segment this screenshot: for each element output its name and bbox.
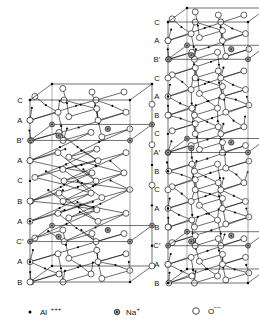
oxygen-ion: [188, 254, 194, 260]
oxygen-ion: [219, 261, 225, 267]
aluminium-ion: [94, 226, 96, 228]
sodium-ion-core: [107, 128, 109, 130]
aluminium-ion: [31, 107, 33, 109]
oxygen-ion: [89, 89, 95, 95]
sodium-ion-core: [167, 245, 169, 247]
oxygen-ion: [241, 68, 247, 74]
oxygen-ion: [246, 102, 252, 108]
oxygen-ion: [60, 166, 66, 172]
oxygen-ion: [95, 158, 101, 164]
oxygen-ion: [241, 12, 247, 18]
aluminium-ion: [181, 174, 183, 176]
oxygen-ion: [66, 255, 72, 261]
oxygen-ion: [55, 210, 61, 216]
sodium-ion-core: [167, 152, 169, 154]
aluminium-ion: [193, 46, 195, 48]
oxygen-ion: [191, 224, 197, 230]
aluminium-ion: [210, 229, 212, 231]
oxygen-ion: [188, 198, 194, 204]
legend-symbol: Al: [40, 308, 47, 317]
sodium-ion-core: [186, 44, 188, 46]
aluminium-ion: [65, 163, 67, 165]
oxygen-ion: [121, 231, 127, 237]
oxygen-ion: [191, 112, 197, 118]
oxygen-ion: [165, 261, 171, 267]
sodium-ion-core: [29, 241, 31, 243]
sodium-ion-core: [107, 229, 109, 231]
aluminium-ion: [232, 120, 234, 122]
sodium-ion-core: [230, 48, 232, 50]
oxygen-ion: [95, 117, 101, 123]
aluminium-ion: [78, 206, 80, 208]
sodium-ion-core: [190, 54, 192, 56]
aluminium-ion: [60, 125, 62, 127]
oxygen-ion: [188, 87, 194, 93]
aluminium-ion: [77, 246, 79, 248]
oxygen-ion: [218, 75, 224, 81]
oxygen-ion: [192, 121, 198, 127]
aluminium-ion: [178, 214, 180, 216]
oxygen-ion: [189, 105, 195, 111]
aluminium-ion: [44, 267, 46, 269]
aluminium-ion: [191, 214, 193, 216]
oxygen-ion: [196, 258, 202, 264]
aluminium-ion: [82, 168, 84, 170]
legend-charge: +: [137, 305, 141, 312]
stacking-label: C′: [153, 241, 161, 250]
oxygen-ion: [192, 65, 198, 71]
aluminium-ion: [206, 158, 208, 160]
oxygen-ion: [219, 205, 225, 211]
oxygen-ion: [55, 109, 61, 115]
oxygen-ion: [191, 168, 197, 174]
oxygen-ion: [192, 131, 198, 137]
stacking-label: B: [154, 223, 159, 232]
aluminium-ion: [170, 253, 172, 255]
aluminium-ion: [60, 186, 62, 188]
aluminium-ion: [209, 193, 211, 195]
oxygen-ion: [241, 124, 247, 130]
stacking-label: B′: [17, 136, 24, 145]
oxygen-ion: [32, 174, 38, 180]
oxygen-ion: [196, 90, 202, 96]
aluminium-ion: [231, 27, 233, 29]
aluminium-ion: [98, 141, 100, 143]
stacking-label: A: [154, 92, 160, 101]
aluminium-ion: [169, 84, 171, 86]
aluminium-ion: [205, 213, 207, 215]
oxygen-ion: [61, 178, 67, 184]
oxygen-ion: [165, 224, 171, 230]
oxygen-ion: [246, 214, 252, 220]
aluminium-ion: [194, 270, 196, 272]
cell-vertex: [186, 268, 189, 271]
oxygen-ion: [219, 38, 225, 44]
stacking-label: C′: [16, 237, 24, 246]
aluminium-ion: [180, 26, 182, 28]
oxygen-ion: [123, 150, 129, 156]
aluminium-ion: [29, 261, 31, 263]
oxygen-ion: [215, 236, 221, 242]
aluminium-ion: [76, 201, 78, 203]
aluminium-ion: [191, 102, 193, 104]
oxygen-ion: [27, 198, 33, 204]
oxygen-ion: [123, 109, 129, 115]
oxygen-ion: [215, 12, 221, 18]
stacking-label: B: [17, 197, 22, 206]
aluminium-ion: [222, 67, 224, 69]
oxygen-ion: [215, 161, 221, 167]
aluminium-ion: [75, 105, 77, 107]
aluminium-ion: [195, 48, 197, 50]
oxygen-ion: [219, 195, 225, 201]
oxygen-ion: [246, 270, 252, 276]
aluminium-ion: [167, 48, 169, 50]
stacking-label: B: [154, 111, 159, 120]
aluminium-ion: [209, 172, 211, 174]
aluminium-ion: [64, 148, 66, 150]
aluminium-ion: [224, 233, 226, 235]
aluminium-ion: [234, 211, 236, 213]
oxygen-ion: [192, 9, 198, 15]
aluminium-ion: [181, 193, 183, 195]
aluminium-ion: [92, 206, 94, 208]
oxygen-ion: [66, 154, 72, 160]
aluminium-ion: [76, 146, 78, 148]
aluminium-ion: [60, 267, 62, 269]
